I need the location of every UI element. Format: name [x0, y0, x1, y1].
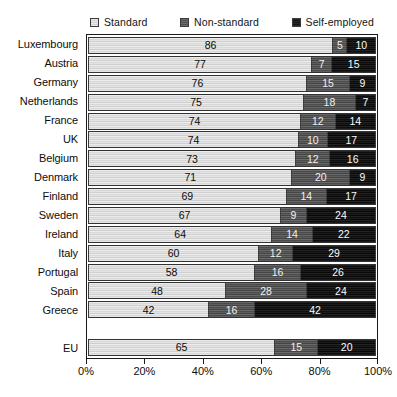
bar-segment-self-employed: 24	[307, 282, 376, 299]
bar-row: 86510	[88, 37, 376, 54]
bar-segment-standard: 86	[88, 37, 333, 54]
bar-segment-standard: 48	[88, 282, 226, 299]
bar-segment-non-standard: 20	[292, 169, 350, 186]
bar-segment-self-employed: 42	[255, 301, 376, 318]
bar-segment-non-standard: 10	[299, 131, 328, 148]
bar-value-label: 15	[322, 78, 334, 89]
bar-segment-self-employed: 29	[293, 245, 376, 262]
legend-swatch-standard	[90, 18, 99, 27]
bar-segment-standard: 76	[88, 75, 307, 92]
bar-rows-container: 8651077715761597518774121474101773121671…	[86, 34, 378, 359]
bar-segment-standard: 42	[88, 301, 209, 318]
bar-value-label: 7	[319, 59, 325, 70]
bar-value-label: 18	[324, 97, 336, 108]
bar-segment-non-standard: 14	[287, 188, 327, 205]
legend-label: Self-employed	[306, 16, 374, 28]
bar-value-label: 24	[335, 286, 347, 297]
bar-segment-self-employed: 10	[347, 37, 376, 54]
bar-value-label: 16	[272, 267, 284, 278]
bar-value-label: 10	[355, 40, 367, 51]
category-label: Spain	[0, 283, 82, 300]
category-label: Germany	[0, 74, 82, 91]
bar-segment-non-standard: 12	[296, 150, 330, 167]
axis-tick-label: 20%	[133, 365, 155, 377]
bar-value-label: 73	[186, 154, 198, 165]
category-label: Belgium	[0, 150, 82, 167]
bar-value-label: 14	[301, 191, 313, 202]
category-label: Greece	[0, 302, 82, 319]
bar-segment-self-employed: 17	[327, 188, 376, 205]
bar-segment-standard: 64	[88, 226, 272, 243]
bar-segment-standard: 71	[88, 169, 292, 186]
axis-tick-label: 100%	[364, 365, 392, 377]
legend-entry: Non-standard	[180, 16, 259, 28]
bar-segment-self-employed: 7	[356, 94, 376, 111]
category-label: Italy	[0, 245, 82, 262]
bar-value-label: 26	[332, 267, 344, 278]
bar-segment-self-employed: 26	[301, 264, 376, 281]
bar-value-label: 77	[194, 59, 206, 70]
bar-value-label: 15	[290, 342, 302, 353]
bar-segment-self-employed: 9	[350, 75, 376, 92]
bar-row: 67924	[88, 207, 376, 224]
bar-segment-non-standard: 15	[275, 339, 318, 356]
bar-segment-standard: 74	[88, 131, 299, 148]
value-axis-ticks	[86, 359, 378, 364]
bar-value-label: 75	[190, 97, 202, 108]
legend-swatch-non-standard	[180, 18, 189, 27]
bar-value-label: 74	[188, 135, 200, 146]
bar-segment-standard: 74	[88, 113, 301, 130]
bar-value-label: 76	[192, 78, 204, 89]
bar-value-label: 9	[360, 78, 366, 89]
bar-segment-non-standard: 16	[209, 301, 255, 318]
bar-row: 641422	[88, 226, 376, 243]
category-label: Finland	[0, 188, 82, 205]
bar-segment-standard: 77	[88, 56, 312, 73]
bar-row: 581626	[88, 264, 376, 281]
stacked-bar-chart: StandardNon-standardSelf-employed Luxemb…	[0, 0, 397, 397]
bar-value-label: 67	[179, 210, 191, 221]
bar-row: 651520	[88, 339, 376, 356]
bar-value-label: 20	[315, 172, 327, 183]
bar-value-label: 17	[345, 191, 357, 202]
bar-segment-self-employed: 9	[350, 169, 376, 186]
bar-segment-self-employed: 17	[328, 131, 376, 148]
bar-value-label: 16	[347, 154, 359, 165]
bar-segment-self-employed: 15	[332, 56, 376, 73]
category-label: Austria	[0, 55, 82, 72]
bar-row: 75187	[88, 94, 376, 111]
bar-value-label: 14	[286, 229, 298, 240]
axis-tick-label: 80%	[309, 365, 331, 377]
bar-segment-standard: 67	[88, 207, 281, 224]
bar-value-label: 5	[337, 40, 343, 51]
bar-segment-non-standard: 14	[272, 226, 312, 243]
bar-value-label: 12	[312, 116, 324, 127]
bar-value-label: 20	[341, 342, 353, 353]
bar-segment-non-standard: 15	[307, 75, 350, 92]
category-label: Ireland	[0, 226, 82, 243]
bar-segment-self-employed: 20	[318, 339, 376, 356]
category-label: France	[0, 112, 82, 129]
bar-segment-non-standard: 12	[301, 113, 336, 130]
bar-segment-standard: 69	[88, 188, 287, 205]
bar-value-label: 60	[168, 248, 180, 259]
bar-value-label: 9	[290, 210, 296, 221]
bar-row: 741017	[88, 131, 376, 148]
bar-value-label: 14	[349, 116, 361, 127]
bar-value-label: 42	[309, 305, 321, 316]
bar-segment-self-employed: 22	[313, 226, 376, 243]
bar-value-label: 64	[174, 229, 186, 240]
bar-value-label: 17	[345, 135, 357, 146]
bar-segment-non-standard: 5	[333, 37, 347, 54]
bar-segment-self-employed: 24	[307, 207, 376, 224]
bar-segment-standard: 73	[88, 150, 296, 167]
axis-tick-label: 60%	[250, 365, 272, 377]
bar-segment-non-standard: 28	[226, 282, 307, 299]
axis-tick-label: 40%	[192, 365, 214, 377]
bar-segment-non-standard: 9	[281, 207, 307, 224]
category-label: UK	[0, 131, 82, 148]
bar-value-label: 28	[260, 286, 272, 297]
axis-tick	[203, 359, 204, 364]
axis-tick-label: 0%	[78, 365, 94, 377]
bar-segment-self-employed: 16	[330, 150, 376, 167]
